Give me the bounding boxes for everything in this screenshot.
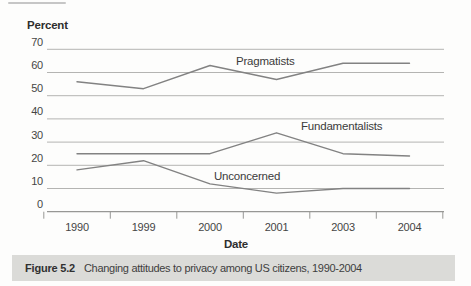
figure-page: Percent 706050403020100 1990199920002001…	[0, 0, 471, 286]
series-label-fundamentalists: Fundamentalists	[301, 120, 382, 132]
y-tick-label: 10	[13, 175, 43, 187]
series-line-pragmatists	[77, 63, 410, 88]
figure-caption-text: Changing attitudes to privacy among US c…	[84, 262, 362, 274]
x-axis-title: Date	[210, 238, 262, 250]
series-label-pragmatists: Pragmatists	[236, 55, 295, 67]
x-tick-label: 2004	[387, 221, 433, 233]
y-tick-label: 0	[13, 198, 43, 210]
x-tick-label: 1999	[121, 221, 167, 233]
y-tick-label: 60	[13, 59, 43, 71]
x-tick-label: 2003	[320, 221, 366, 233]
x-tick-label: 2001	[254, 221, 300, 233]
y-tick-label: 40	[13, 105, 43, 117]
y-tick-label: 30	[13, 129, 43, 141]
x-tick-label: 2000	[187, 221, 233, 233]
series-line-fundamentalists	[77, 133, 410, 156]
figure-caption-number: Figure 5.2	[25, 262, 75, 274]
y-tick-label: 50	[13, 82, 43, 94]
figure-caption: Figure 5.2 Changing attitudes to privacy…	[12, 255, 455, 281]
y-tick-label: 70	[13, 36, 43, 48]
series-label-unconcerned: Unconcerned	[214, 170, 280, 182]
x-tick-label: 1990	[54, 221, 100, 233]
y-tick-label: 20	[13, 152, 43, 164]
